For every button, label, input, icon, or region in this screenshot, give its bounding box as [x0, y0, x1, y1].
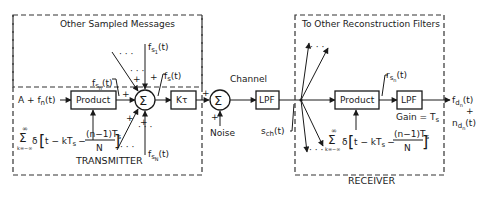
other-reconstruction-filters-label: To Other Reconstruction Filters — [301, 19, 440, 29]
svg-text:Σ: Σ — [328, 133, 336, 147]
svg-text:LPF: LPF — [259, 95, 275, 105]
fsN-label: fsN(t) — [148, 149, 169, 162]
other-sampled-messages-label: Other Sampled Messages — [60, 19, 175, 29]
plus-sign: + — [211, 112, 219, 122]
sch-pointer — [290, 104, 294, 131]
svg-text:Σ: Σ — [19, 131, 27, 145]
dots: · · · — [120, 142, 134, 152]
svg-text:δ: δ — [32, 136, 38, 146]
svg-text:A + fn(t): A + fn(t) — [18, 95, 56, 107]
tx-impulse-train: ∞ Σ k=−∞ δ [ t − kTs− (n−1)Ts N ] — [17, 125, 122, 153]
tx-product-label: Product — [76, 95, 111, 105]
plus-sign: + — [126, 113, 134, 123]
rx-impulse-train: ∞ Σ k=−∞ δ [ t − kTs− (n−1)Ts N ] — [325, 127, 430, 153]
svg-text:k=−∞: k=−∞ — [17, 145, 32, 151]
svg-text:k=−∞: k=−∞ — [325, 146, 340, 152]
rx-lpf-block: LPF — [397, 91, 422, 109]
svg-text:LPF: LPF — [401, 95, 417, 105]
noise-label: Noise — [210, 128, 235, 138]
dots: · · · — [138, 122, 152, 132]
dots: · · · — [310, 42, 324, 52]
fan-down-1 — [301, 100, 307, 152]
fan-down-2 — [301, 100, 323, 146]
fs-label: fs(t) — [164, 71, 181, 83]
plus-sign: + — [150, 72, 158, 82]
svg-text:+: + — [466, 106, 474, 116]
fs1-label: fs1(t) — [148, 42, 169, 55]
plus-sign: + — [202, 88, 210, 98]
svg-text:t − kTs−: t − kTs− — [45, 136, 86, 148]
plus-sign: + — [122, 89, 130, 99]
transmitter-title: TRANSMITTER — [75, 155, 143, 166]
rsn-label: rsn(t) — [386, 70, 407, 83]
tdm-block-diagram: Other Sampled Messages TRANSMITTER A + f… — [0, 0, 498, 201]
tx-product-block: Product — [71, 91, 116, 109]
gain-block: Kτ — [171, 91, 196, 109]
sch-label: sch(t) — [261, 126, 285, 138]
svg-text:Kτ: Kτ — [176, 95, 187, 105]
channel-summer: Σ — [210, 90, 230, 110]
receiver-output: fdn(t) + ndn(t) — [452, 95, 476, 131]
plus-sign: + — [133, 74, 141, 84]
transmitter-input: A + fn(t) — [18, 95, 56, 107]
channel-lpf-block: LPF — [256, 91, 279, 109]
fsn-label: fsn(t) — [92, 78, 113, 91]
dots: · · · — [119, 49, 133, 59]
svg-text:N: N — [96, 143, 103, 153]
svg-text:Product: Product — [340, 95, 375, 105]
rx-lpf-gain-label: Gain = Ts — [396, 112, 439, 124]
svg-text:Σ: Σ — [139, 93, 147, 108]
tx-summer: Σ — [135, 90, 155, 110]
svg-text:]: ] — [114, 131, 120, 150]
receiver-title: RECEIVER — [348, 175, 396, 186]
svg-text:N: N — [404, 143, 411, 153]
svg-text:t − kTs−: t − kTs− — [354, 137, 395, 149]
svg-text:]: ] — [422, 132, 428, 151]
dots: · · · — [309, 145, 323, 155]
rx-product-block: Product — [335, 91, 379, 109]
svg-text:ndn(t): ndn(t) — [452, 118, 476, 131]
channel-title: Channel — [230, 74, 267, 84]
svg-text:Σ: Σ — [214, 93, 222, 108]
